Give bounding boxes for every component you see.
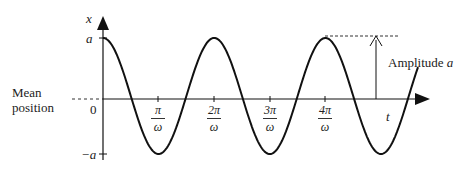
x-axis-arrow-icon [97, 16, 109, 30]
origin-label: 0 [90, 103, 97, 116]
amplitude-text: Amplitude [388, 55, 444, 70]
mean-position-label-line2: position [12, 101, 54, 114]
x-axis-label: t [386, 110, 390, 123]
x-tick-label-3pi: 3πω [258, 104, 282, 134]
y-tick-label-minus-a: −a [81, 148, 96, 161]
y-axis-label: x [86, 12, 92, 25]
x-tick-label-4pi: 4πω [313, 104, 337, 134]
amplitude-label: Amplitude a [388, 56, 453, 69]
x-tick-label-2pi: 2πω [202, 104, 226, 134]
shm-diagram [0, 0, 461, 172]
t-axis-arrow-icon [415, 93, 430, 105]
x-tick-label-pi: πω [146, 104, 170, 134]
cosine-curve [103, 38, 418, 154]
amplitude-symbol: a [447, 55, 454, 70]
mean-position-label-line1: Mean [12, 86, 42, 99]
y-tick-label-a: a [86, 32, 93, 45]
